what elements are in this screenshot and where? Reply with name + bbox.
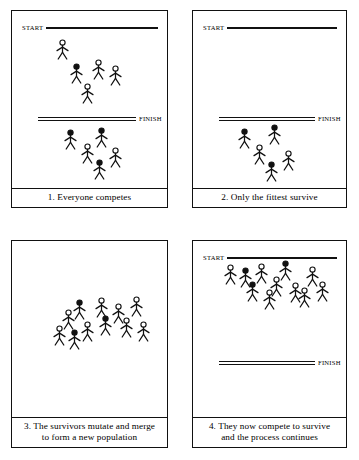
start-line-label: START [22,24,43,32]
stick-figure-open [262,289,277,310]
finish-line-rule [219,360,315,366]
stick-figure-filled [72,299,87,320]
panel-3-scene [12,241,167,417]
caption-line: 4. They now compete to survive [195,421,344,433]
stick-figure-filled [67,329,82,350]
start-line-label: START [203,254,224,262]
panel-3-caption: 3. The survivors mutate and mergeto form… [12,417,167,447]
panel-1-scene: STARTFINISH [12,11,167,188]
finish-line-rule [38,116,136,122]
caption-line: 3. The survivors mutate and merge [14,421,165,433]
stick-figure-open [315,281,330,302]
caption-line: to form a new population [14,432,165,444]
caption-line: 1. Everyone competes [14,192,165,204]
finish-line: FINISH [219,358,341,368]
finish-line-label: FINISH [318,115,341,123]
finish-line: FINISH [219,114,341,124]
stick-figure-open [129,296,144,317]
panel-4-scene: STARTFINISH [193,241,346,417]
stick-figure-filled [94,127,109,148]
start-line: START [22,23,158,33]
panel-4-caption: 4. They now compete to surviveand the pr… [193,417,346,447]
finish-line-label: FINISH [139,115,162,123]
start-line: START [203,253,337,263]
stick-figure-open [281,150,296,171]
stick-figure-filled [264,161,279,182]
stick-figure-open [55,39,70,60]
stick-figure-filled [69,63,84,84]
stick-figure-filled [245,281,260,302]
panel-1: STARTFINISH1. Everyone competes [11,10,168,208]
stick-figure-open [52,325,67,346]
finish-line-rule [219,116,315,122]
finish-line-label: FINISH [318,359,341,367]
stick-figure-filled [92,159,107,180]
panel-2: STARTFINISH2. Only the fittest survive [192,10,347,208]
start-line-rule [46,25,158,31]
stick-figure-open [136,321,151,342]
genetic-algorithm-diagram: STARTFINISH1. Everyone competesSTARTFINI… [0,0,359,460]
panel-4: STARTFINISH4. They now compete to surviv… [192,240,347,448]
stick-figure-open [223,264,238,285]
stick-figure-open [108,65,123,86]
panel-1-caption: 1. Everyone competes [12,188,167,207]
start-line-rule [227,25,337,31]
panel-2-scene: STARTFINISH [193,11,346,188]
stick-figure-open [80,83,95,104]
stick-figure-filled [267,124,282,145]
stick-figure-open [80,321,95,342]
caption-line: 2. Only the fittest survive [195,192,344,204]
caption-line: and the process continues [195,432,344,444]
stick-figure-open [91,59,106,80]
start-line-label: START [203,24,224,32]
stick-figure-open [297,287,312,308]
start-line: START [203,23,337,33]
stick-figure-filled [237,128,252,149]
stick-figure-open [108,147,123,168]
panel-3: 3. The survivors mutate and mergeto form… [11,240,168,448]
stick-figure-filled [98,315,113,336]
stick-figure-open [119,317,134,338]
finish-line: FINISH [38,114,162,124]
panel-2-caption: 2. Only the fittest survive [193,188,346,207]
stick-figure-filled [63,129,78,150]
